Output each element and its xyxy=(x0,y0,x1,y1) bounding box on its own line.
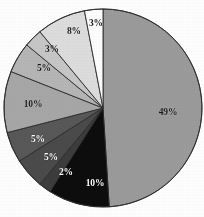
pie-chart-canvas xyxy=(0,0,204,217)
pie-chart: 49%10%2%5%5%10%5%3%8%3% xyxy=(0,0,204,217)
pie-slice[interactable] xyxy=(103,9,202,207)
